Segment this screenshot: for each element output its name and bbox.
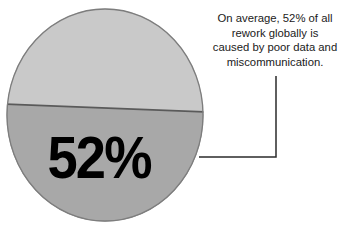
annotation-line-1: On average, 52% of all: [201, 11, 349, 26]
annotation-line-3: caused by poor data and: [201, 40, 349, 55]
annotation-line-4: miscommunication.: [201, 55, 349, 70]
infographic-root: 52% On average, 52% of all rework global…: [0, 0, 349, 231]
pie-chart: 52%: [6, 8, 204, 222]
pie-value-label: 52%: [13, 127, 184, 189]
annotation-line-2: rework globally is: [201, 26, 349, 41]
leader-line: [195, 70, 287, 165]
leader-line-path: [199, 76, 276, 157]
annotation-text: On average, 52% of all rework globally i…: [201, 11, 349, 69]
